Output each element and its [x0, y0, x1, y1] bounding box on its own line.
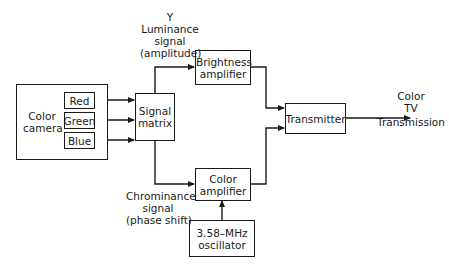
transmitter-label: Transmitter	[286, 113, 346, 125]
green-label: Green	[64, 115, 96, 127]
luminance-signal-label: Y Luminance signal (amplitude)	[140, 11, 200, 59]
red-channel-box: Red	[64, 92, 95, 109]
color-tv-output-label: Color TV Transmission	[374, 90, 448, 128]
red-label: Red	[70, 95, 90, 107]
color-camera-label: Color camera	[23, 110, 61, 134]
color-amplifier-box: Color amplifier	[195, 168, 251, 201]
oscillator-label: 3.58–MHz oscillator	[192, 227, 252, 251]
green-channel-box: Green	[64, 112, 95, 129]
blue-channel-box: Blue	[64, 132, 95, 149]
signal-matrix-box: Signal matrix	[135, 93, 175, 141]
chrominance-signal-label: Chrominance signal (phase shift)	[126, 190, 190, 226]
color-amplifier-label: Color amplifier	[197, 173, 249, 197]
brightness-amplifier-label: Brightness amplifier	[196, 56, 250, 80]
blue-label: Blue	[68, 135, 91, 147]
brightness-amplifier-box: Brightness amplifier	[195, 50, 251, 85]
signal-matrix-label: Signal matrix	[137, 105, 173, 129]
transmitter-box: Transmitter	[285, 103, 346, 134]
oscillator-box: 3.58–MHz oscillator	[189, 220, 255, 257]
